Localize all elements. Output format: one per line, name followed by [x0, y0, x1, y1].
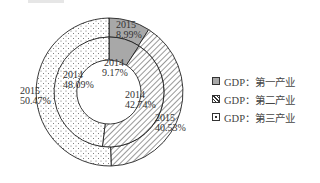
outer-first-pct-label: 8.99%: [116, 29, 142, 40]
legend-item-first-industry: GDP：第一产业: [212, 72, 295, 90]
outer-third-pct-label: 50.47%: [20, 95, 51, 106]
inner-third-pct-label: 48.09%: [63, 79, 94, 90]
legend-item-second-industry: GDP：第二产业: [212, 90, 295, 108]
solid-swatch-icon: [212, 77, 220, 85]
hatch-swatch-icon: [212, 95, 220, 103]
legend-label: GDP：第一产业: [224, 74, 295, 89]
inner-second-pct-label: 42.74%: [125, 99, 156, 110]
legend-item-third-industry: GDP：第三产业: [212, 108, 295, 126]
inner-first-pct-label: 9.17%: [102, 67, 128, 78]
legend-label: GDP：第三产业: [224, 110, 295, 125]
legend-label: GDP：第二产业: [224, 92, 295, 107]
outer-second-pct-label: 40.53%: [155, 122, 186, 133]
chart-legend: GDP：第一产业 GDP：第二产业 GDP：第三产业: [212, 72, 295, 126]
dot-swatch-icon: [212, 113, 220, 121]
